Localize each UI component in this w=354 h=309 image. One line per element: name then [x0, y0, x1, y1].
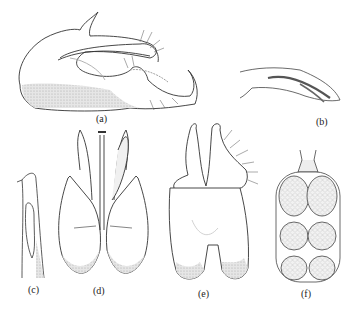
figure: (a) (b) (c) (d) (e) (f): [0, 0, 354, 309]
panel-label-d: (d): [93, 285, 105, 296]
panel-c-drawing: [17, 173, 44, 278]
panel-label-f: (f): [301, 288, 311, 299]
panel-b-drawing: [240, 68, 340, 102]
panel-label-b: (b): [316, 116, 328, 127]
panel-a-drawing: [19, 12, 197, 111]
panel-label-a: (a): [96, 113, 107, 124]
panel-e-drawing: [169, 124, 248, 279]
panel-label-e: (e): [198, 288, 209, 299]
panel-label-c: (c): [28, 284, 39, 295]
panel-d-drawing: [59, 130, 148, 273]
figure-drawing: [0, 0, 354, 309]
panel-f-drawing: [276, 150, 340, 282]
